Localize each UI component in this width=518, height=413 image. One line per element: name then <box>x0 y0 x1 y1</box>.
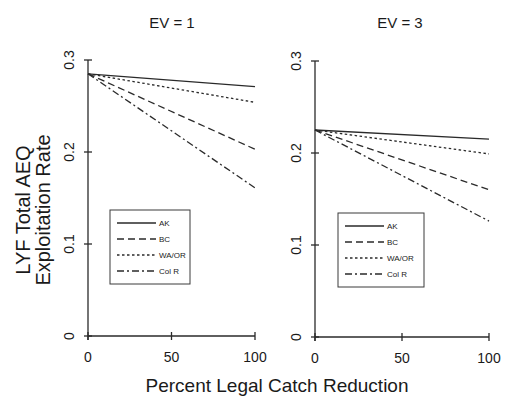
panel-title: EV = 3 <box>377 14 422 31</box>
y-tick-label: 0.1 <box>61 234 77 254</box>
y-tick-label: 0 <box>288 333 304 341</box>
x-tick-label: 0 <box>84 349 92 365</box>
y-tick-label: 0.2 <box>61 142 77 162</box>
y-axis-label-line2: Exploitation Rate <box>32 134 54 285</box>
legend-label: BC <box>159 235 170 244</box>
x-tick-label: 50 <box>164 349 180 365</box>
figure: LYF Total AEQ Exploitation Rate Percent … <box>0 0 518 413</box>
x-tick-label: 50 <box>394 350 410 366</box>
panel-ev1: EV = 100.10.20.3050100AKBCWA/ORCol R <box>61 14 267 365</box>
series-line-wa-or <box>88 74 255 103</box>
legend-label: Col R <box>387 270 407 279</box>
legend-label: WA/OR <box>387 254 414 263</box>
legend-label: AK <box>387 222 398 231</box>
y-tick-label: 0.1 <box>288 235 304 255</box>
legend: AKBCWA/ORCol R <box>110 210 190 284</box>
x-tick-label: 100 <box>477 350 501 366</box>
panel-ev3: EV = 300.10.20.3050100AKBCWA/ORCol R <box>288 14 501 366</box>
legend-label: Col R <box>159 267 179 276</box>
y-tick-label: 0.2 <box>288 143 304 163</box>
legend: AKBCWA/ORCol R <box>338 213 424 287</box>
panel-title: EV = 1 <box>149 14 194 31</box>
x-axis-label: Percent Legal Catch Reduction <box>146 375 409 396</box>
y-tick-label: 0.3 <box>61 50 77 70</box>
series-line-col-r <box>88 74 255 188</box>
x-tick-label: 100 <box>243 349 267 365</box>
series-line-wa-or <box>315 130 489 154</box>
y-tick-label: 0.3 <box>288 51 304 71</box>
x-tick-label: 0 <box>311 350 319 366</box>
y-tick-label: 0 <box>61 332 77 340</box>
legend-label: WA/OR <box>159 251 186 260</box>
series-line-col-r <box>315 130 489 221</box>
y-axis-label-line1: LYF Total AEQ <box>12 145 34 274</box>
legend-box <box>338 213 424 287</box>
series-line-bc <box>315 130 489 190</box>
legend-label: AK <box>159 219 170 228</box>
legend-label: BC <box>387 238 398 247</box>
y-axis-label: LYF Total AEQ Exploitation Rate <box>12 134 54 285</box>
series-line-ak <box>315 130 489 139</box>
